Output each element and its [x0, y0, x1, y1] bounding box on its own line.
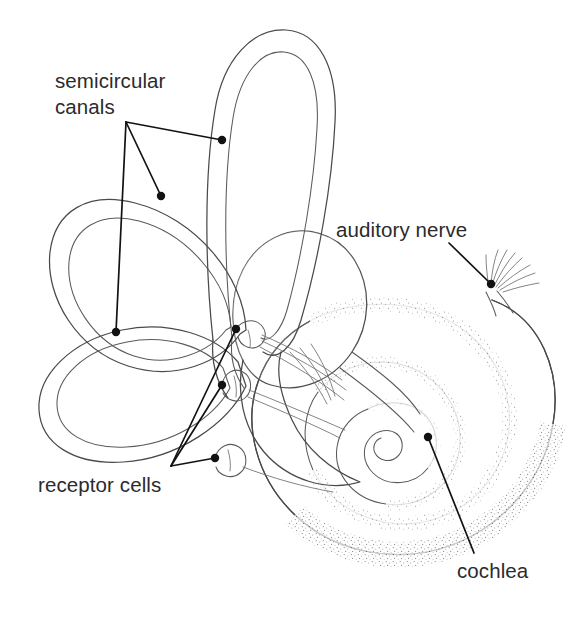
- inner-ear-diagram: semicircular canals auditory nerve recep…: [0, 0, 570, 619]
- label-semicircular-canals-line1: semicircular: [55, 69, 166, 92]
- leader-dot-receptor-3: [211, 454, 219, 462]
- label-semicircular-canals-line2: canals: [55, 95, 115, 118]
- leader-dot-canal-posterior: [112, 328, 120, 336]
- label-receptor-cells: receptor cells: [38, 473, 161, 496]
- leader-dot-auditory-nerve: [487, 280, 495, 288]
- leader-dot-receptor-1: [232, 325, 240, 333]
- label-cochlea: cochlea: [457, 559, 529, 582]
- leader-dot-canal-superior: [218, 136, 226, 144]
- label-auditory-nerve: auditory nerve: [336, 218, 467, 241]
- leader-dot-canal-lateral: [157, 192, 165, 200]
- leader-dot-receptor-2: [218, 381, 226, 389]
- leader-dot-cochlea: [424, 433, 432, 441]
- diagram-canvas: semicircular canals auditory nerve recep…: [0, 0, 570, 619]
